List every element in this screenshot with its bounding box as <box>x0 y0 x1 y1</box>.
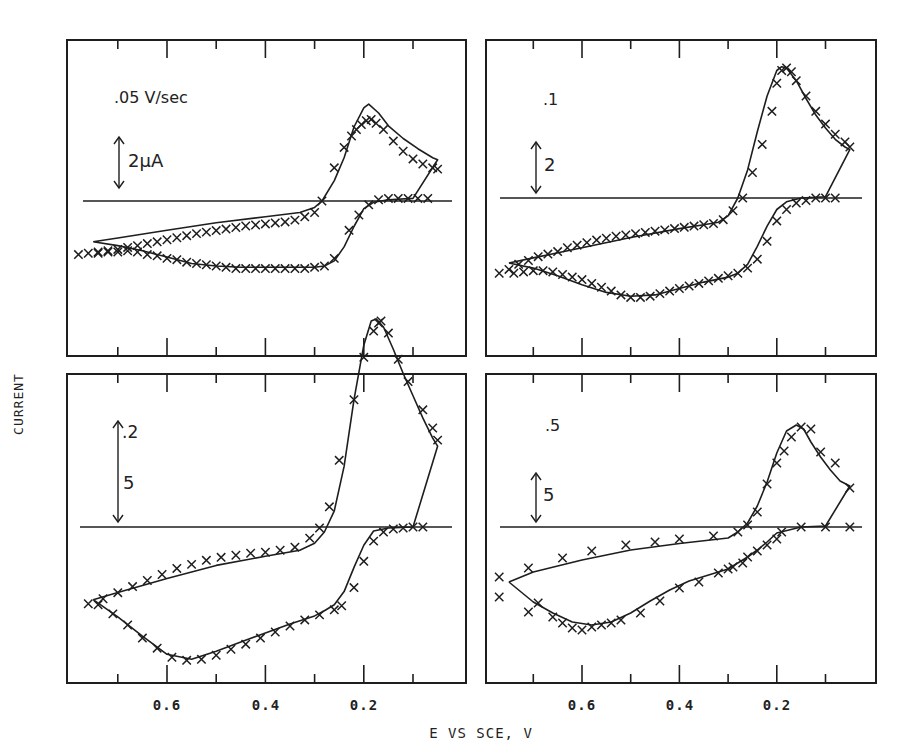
x-marker-icon <box>389 525 397 533</box>
x-marker-icon <box>94 249 102 257</box>
y-axis-label: CURRENT <box>11 373 26 435</box>
x-marker-icon <box>651 227 659 235</box>
panel-frame <box>67 374 466 683</box>
x-marker-icon <box>597 621 605 629</box>
x-marker-icon <box>773 79 781 87</box>
x-marker-icon <box>807 425 815 433</box>
x-marker-icon <box>568 624 576 632</box>
scale-bar-label-bl: 5 <box>123 472 134 493</box>
x-marker-icon <box>182 231 190 239</box>
x-marker-icon <box>831 130 839 138</box>
simulated-curve <box>93 104 437 267</box>
x-marker-icon <box>104 248 112 256</box>
x-marker-icon <box>261 264 269 272</box>
x-marker-icon <box>251 264 259 272</box>
x-marker-icon <box>123 621 131 629</box>
scan-rate-label-br: .5 <box>545 416 560 435</box>
x-marker-icon <box>232 551 240 559</box>
x-marker-icon <box>651 538 659 546</box>
x-marker-icon <box>588 547 596 555</box>
cyclic-voltammogram-panels <box>0 0 909 756</box>
scale-bar-label-br: 5 <box>543 484 554 505</box>
x-marker-icon <box>578 275 586 283</box>
x-marker-icon <box>357 120 365 128</box>
x-marker-icon <box>734 269 742 277</box>
x-marker-icon <box>291 264 299 272</box>
x-marker-icon <box>428 424 436 432</box>
x-marker-icon <box>350 583 358 591</box>
x-marker-icon <box>646 292 654 300</box>
x-marker-icon <box>365 201 373 209</box>
x-marker-icon <box>495 573 503 581</box>
x-marker-icon <box>310 208 318 216</box>
x-marker-icon <box>583 238 591 246</box>
x-marker-icon <box>104 247 112 255</box>
x-marker-icon <box>143 239 151 247</box>
x-marker-icon <box>109 610 117 618</box>
panel-top-right <box>486 40 876 356</box>
x-marker-icon <box>558 554 566 562</box>
x-marker-icon <box>261 220 269 228</box>
simulated-curve <box>93 319 437 659</box>
x-marker-icon <box>389 137 397 145</box>
x-tick-label-br-0.2: 0.2 <box>763 697 791 713</box>
x-marker-icon <box>128 582 136 590</box>
x-marker-icon <box>622 541 630 549</box>
x-marker-icon <box>271 219 279 227</box>
x-marker-icon <box>212 651 220 659</box>
x-marker-icon <box>232 264 240 272</box>
x-marker-icon <box>510 269 518 277</box>
x-marker-icon <box>369 537 377 545</box>
x-marker-icon <box>602 234 610 242</box>
x-marker-icon <box>524 256 532 264</box>
x-marker-icon <box>831 459 839 467</box>
x-marker-icon <box>419 160 427 168</box>
x-marker-icon <box>773 535 781 543</box>
x-marker-icon <box>337 602 345 610</box>
x-marker-icon <box>242 640 250 648</box>
x-marker-icon <box>379 125 387 133</box>
x-marker-icon <box>588 279 596 287</box>
x-marker-icon <box>202 228 210 236</box>
x-marker-icon <box>846 484 854 492</box>
x-marker-icon <box>281 264 289 272</box>
x-marker-icon <box>627 293 635 301</box>
x-marker-icon <box>568 273 576 281</box>
x-marker-icon <box>549 613 557 621</box>
x-tick-label-bl-0.6: 0.6 <box>153 697 181 713</box>
x-marker-icon <box>661 226 669 234</box>
x-marker-icon <box>797 423 805 431</box>
x-marker-icon <box>217 553 225 561</box>
x-tick-label-bl-0.4: 0.4 <box>252 697 280 713</box>
x-marker-icon <box>222 225 230 233</box>
x-marker-icon <box>578 626 586 634</box>
scan-rate-label-tr: .1 <box>543 90 558 109</box>
x-marker-icon <box>743 553 751 561</box>
x-marker-icon <box>330 164 338 172</box>
scan-rate-label-tl: .05 V/sec <box>114 88 188 107</box>
x-marker-icon <box>734 528 742 536</box>
x-marker-icon <box>675 535 683 543</box>
x-marker-icon <box>612 232 620 240</box>
x-marker-icon <box>94 248 102 256</box>
x-marker-icon <box>99 595 107 603</box>
x-marker-icon <box>524 564 532 572</box>
x-marker-icon <box>519 268 527 276</box>
x-marker-icon <box>291 543 299 551</box>
x-marker-icon <box>242 264 250 272</box>
x-marker-icon <box>246 549 254 557</box>
x-marker-icon <box>374 196 382 204</box>
x-marker-icon <box>753 255 761 263</box>
x-marker-icon <box>153 238 161 246</box>
x-marker-icon <box>325 503 333 511</box>
x-tick-label-br-0.4: 0.4 <box>666 697 694 713</box>
scale-bar-label-tr: 2 <box>544 154 555 175</box>
x-marker-icon <box>286 622 294 630</box>
x-marker-icon <box>261 548 269 556</box>
x-marker-icon <box>782 205 790 213</box>
x-marker-icon <box>74 250 82 258</box>
figure: CURRENT E VS SCE, V 0.6 0.4 0.2 0.6 0.4 … <box>0 0 909 756</box>
x-marker-icon <box>173 234 181 242</box>
x-marker-icon <box>656 597 664 605</box>
x-tick-label-br-0.6: 0.6 <box>568 697 596 713</box>
